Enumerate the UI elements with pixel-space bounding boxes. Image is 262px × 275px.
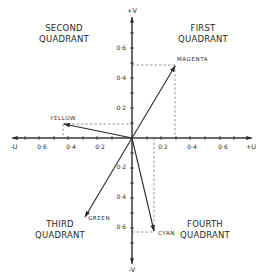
u-tick-label: 0·2 bbox=[95, 143, 105, 150]
svg-text:FIRST: FIRST bbox=[191, 23, 216, 33]
vector-label-yellow: YELLOW bbox=[49, 115, 76, 121]
quadrant-label-fourth: FOURTH QUADRANT bbox=[180, 219, 230, 240]
quadrant-label-first: FIRST QUADRANT bbox=[178, 23, 228, 44]
neg-u-label: -U bbox=[10, 143, 17, 151]
quadrant-label-second: SECOND QUADRANT bbox=[39, 23, 89, 44]
v-tick-label: 0·4 bbox=[116, 74, 126, 81]
u-tick-label: 0·6 bbox=[37, 143, 47, 150]
svg-text:FOURTH: FOURTH bbox=[187, 219, 223, 229]
vector-label-cyan: CYAN bbox=[158, 230, 175, 236]
vector-label-green: GREEN bbox=[88, 215, 110, 221]
svg-text:THIRD: THIRD bbox=[45, 219, 74, 229]
neg-v-label: -V bbox=[129, 266, 136, 274]
svg-text:SECOND: SECOND bbox=[45, 23, 83, 33]
vector-green: GREEN bbox=[85, 138, 132, 221]
u-tick-label: 0·6 bbox=[218, 143, 228, 150]
u-tick-label: 0·4 bbox=[66, 143, 76, 150]
svg-text:QUADRANT: QUADRANT bbox=[35, 230, 85, 240]
v-tick-label: 0·6 bbox=[116, 223, 126, 230]
svg-text:QUADRANT: QUADRANT bbox=[39, 34, 89, 44]
quadrant-label-third: THIRD QUADRANT bbox=[35, 219, 85, 240]
pos-v-label: +V bbox=[127, 7, 137, 15]
svg-text:QUADRANT: QUADRANT bbox=[178, 34, 228, 44]
u-tick-label: 0·4 bbox=[187, 143, 197, 150]
v-tick-label: 0·4 bbox=[116, 193, 126, 200]
u-tick-label: 0·2 bbox=[158, 143, 168, 150]
vector-cyan: CYAN bbox=[132, 138, 175, 236]
vector-label-magenta: MAGENTA bbox=[177, 56, 208, 62]
v-axis: +V -V 0·6 0·4 0·2 0·2 0·4 0·6 bbox=[116, 7, 137, 274]
v-tick-label: 0·2 bbox=[116, 163, 126, 170]
vector-magenta: MAGENTA bbox=[132, 56, 208, 138]
v-tick-label: 0·2 bbox=[116, 104, 126, 111]
vector-yellow: YELLOW bbox=[49, 115, 132, 138]
v-tick-label: 0·6 bbox=[116, 44, 126, 51]
pos-u-label: +U bbox=[246, 143, 256, 151]
svg-text:QUADRANT: QUADRANT bbox=[180, 230, 230, 240]
uv-vector-diagram: SECOND QUADRANT FIRST QUADRANT THIRD QUA… bbox=[0, 0, 262, 275]
